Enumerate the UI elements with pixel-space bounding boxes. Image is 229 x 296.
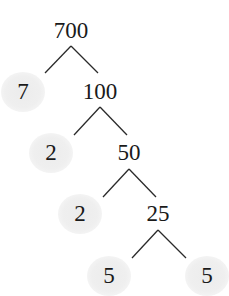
prime-factor-node: 7 [17,80,29,103]
prime-factor-node: 5 [201,264,213,287]
composite-node: 700 [54,19,89,42]
tree-edge [129,169,156,197]
prime-factor-node: 5 [103,264,115,287]
tree-edge [158,230,186,258]
composite-node: 100 [83,80,118,103]
prime-factor-node: 2 [45,141,57,164]
tree-edge [45,46,71,73]
tree-edge [71,46,98,73]
tree-edge [100,107,127,135]
tree-edge [103,169,129,197]
tree-edge [74,107,100,135]
prime-factor-node: 2 [74,202,86,225]
tree-edge [132,230,158,258]
composite-node: 50 [118,141,141,164]
composite-node: 25 [147,202,170,225]
